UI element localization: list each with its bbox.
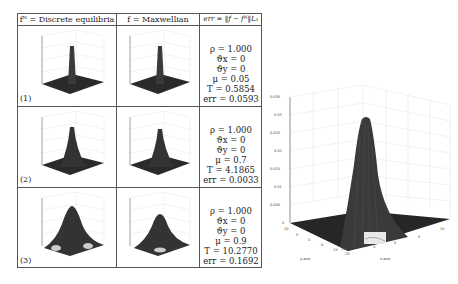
mu-value: μ = 0.05	[200, 74, 262, 84]
row-divider	[18, 106, 261, 107]
error-value: err = 0.0033	[200, 175, 262, 185]
surface-plot-discrete-1	[26, 28, 114, 104]
error-value: err = 0.0593	[200, 94, 262, 104]
surface-plot-maxwellian-2	[118, 109, 198, 185]
y-tick: 10	[284, 227, 288, 231]
mu-value: μ = 0.9	[200, 236, 262, 246]
x-tick: 5	[418, 235, 420, 239]
surface-plot-maxwellian-1	[118, 28, 198, 104]
surface-plot-discrete-2	[26, 109, 114, 185]
column-divider	[116, 14, 117, 267]
theta-x-value: ϑx = 0	[200, 135, 262, 145]
z-tick: 0	[282, 221, 284, 225]
theta-y-value: ϑy = 0	[200, 226, 262, 236]
z-tick: 0.02	[274, 149, 282, 153]
y-tick: 0	[308, 238, 310, 242]
y-tick: -5	[320, 243, 324, 247]
row-label-3: (3)	[20, 256, 31, 265]
header-error: err = ‖f − fᴺ‖L₁	[200, 14, 262, 25]
surface-plot-maxwellian-3	[118, 190, 198, 266]
z-tick: 0.025	[270, 131, 280, 135]
theta-x-value: ϑx = 0	[200, 54, 262, 64]
z-tick: 0.005	[270, 203, 280, 207]
x-tick: 10	[440, 227, 444, 231]
y-tick: -10	[332, 248, 338, 252]
x-tick: -10	[340, 247, 346, 251]
x-tick: -5	[372, 245, 376, 249]
parameters-row-2: ρ = 1.000 ϑx = 0 ϑy = 0 μ = 0.7 T = 4.18…	[200, 125, 262, 185]
x-tick: 0	[394, 241, 396, 245]
row-divider	[18, 187, 261, 188]
row-label-2: (2)	[20, 175, 31, 184]
z-tick: 0.03	[274, 113, 282, 117]
mu-value: μ = 0.7	[200, 155, 262, 165]
x-axis-label: x-axis	[380, 257, 390, 261]
temperature-value: T = 4.1865	[200, 165, 262, 175]
surface-plot-discrete-3	[26, 190, 114, 266]
temperature-value: T = 10.2770	[200, 246, 262, 256]
header-discrete-equilibria: fᴺ = Discrete equilibria	[18, 14, 116, 25]
header-maxwellian: f = Maxwellian	[117, 14, 199, 25]
theta-y-value: ϑy = 0	[200, 145, 262, 155]
y-tick: 5	[296, 233, 298, 237]
error-value: err = 0.1692	[200, 256, 262, 266]
parameters-row-3: ρ = 1.000 ϑx = 0 ϑy = 0 μ = 0.9 T = 10.2…	[200, 206, 262, 266]
z-tick: 0.015	[270, 167, 280, 171]
theta-x-value: ϑx = 0	[200, 216, 262, 226]
large-surface-plot: 0.035 0.03 0.025 0.02 0.015 0.01 0.005 0…	[268, 75, 458, 265]
rho-value: ρ = 1.000	[200, 44, 262, 54]
row-label-1: (1)	[20, 94, 31, 103]
parameters-row-1: ρ = 1.000 ϑx = 0 ϑy = 0 μ = 0.05 T = 0.5…	[200, 44, 262, 104]
rho-value: ρ = 1.000	[200, 125, 262, 135]
theta-y-value: ϑy = 0	[200, 64, 262, 74]
temperature-value: T = 0.5854	[200, 84, 262, 94]
row-divider	[18, 25, 261, 26]
z-tick: 0.01	[274, 185, 282, 189]
rho-value: ρ = 1.000	[200, 206, 262, 216]
x-tick: -15	[344, 252, 350, 256]
z-tick: 0.035	[270, 95, 280, 99]
results-table: fᴺ = Discrete equilibria f = Maxwellian …	[17, 13, 262, 268]
y-axis-label: y-axis	[300, 257, 310, 261]
